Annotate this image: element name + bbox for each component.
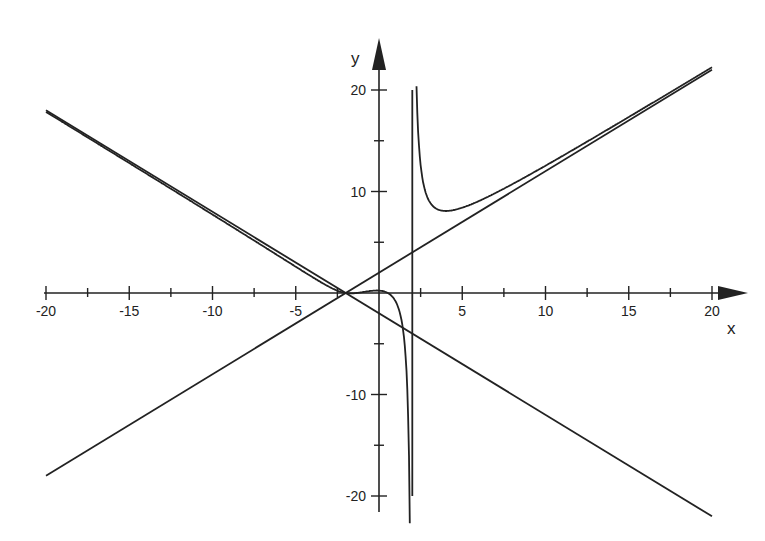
y-tick-label: -20: [346, 488, 366, 504]
x-axis-label: x: [727, 319, 736, 338]
x-tick-label: -10: [202, 303, 222, 319]
x-tick-label: -15: [119, 303, 139, 319]
y-axis-label: y: [351, 49, 360, 68]
x-axis-arrow-icon: [718, 286, 748, 300]
x-tick-label: 10: [538, 303, 554, 319]
curve-left-top: [408, 65, 410, 161]
chart: -20-15-10-55101520 2010-10-20 x y: [0, 0, 765, 541]
x-tick-label: -20: [36, 303, 56, 319]
y-tick-label: 10: [350, 184, 366, 200]
y-tick-label: 20: [350, 82, 366, 98]
x-tick-label: 5: [458, 303, 466, 319]
curve-left-branch: [46, 112, 410, 523]
y-tick-label: -10: [346, 387, 366, 403]
x-tick-label: 15: [621, 303, 637, 319]
axes: [44, 60, 730, 512]
x-tick-label: -5: [290, 303, 303, 319]
x-tick-labels: -20-15-10-55101520: [36, 303, 720, 319]
x-tick-label: 20: [704, 303, 720, 319]
y-axis-arrow-icon: [372, 38, 386, 70]
curve-right-branch: [417, 67, 713, 211]
